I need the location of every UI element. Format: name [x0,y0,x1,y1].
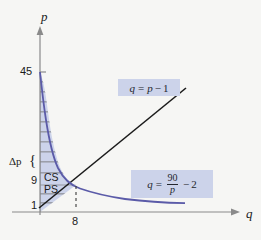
supply-demand-surplus-figure: p q 45 9 1 8 Δp { CS PS q = p − 1 q = 90… [0,0,261,240]
plot-canvas [0,0,261,240]
demand-equation-box: q = 90 p − 2 [131,170,213,198]
supply-equation-box: q = p − 1 [118,79,180,96]
p-axis-arrowhead [37,26,44,35]
demand-eq-fraction: 90 p [167,173,178,195]
supply-eq-rhs-const: 1 [163,82,169,94]
supply-eq-lhs: q [130,82,136,94]
consumer-surplus-steps [40,72,80,185]
q-axis-arrowhead [231,209,240,216]
delta-p-brace: { [29,152,36,169]
p-axis-label: p [41,10,48,23]
q-axis-label: q [246,207,253,220]
demand-eq-denominator: p [167,184,178,196]
demand-eq-equals: = [156,178,162,190]
demand-eq-lhs: q [147,178,153,190]
y-tick-label-9: 9 [31,175,37,186]
demand-eq-const: 2 [191,178,197,190]
producer-surplus-label: PS [44,184,58,195]
x-tick-label-8: 8 [72,216,78,227]
y-tick-label-1: 1 [31,200,37,211]
delta-p-label: Δp [9,156,22,167]
supply-eq-minus: − [155,82,161,94]
y-tick-label-45: 45 [20,66,32,77]
supply-eq-rhs-var: p [147,82,153,94]
supply-eq-equals: = [138,82,144,94]
demand-eq-minus: − [183,178,189,190]
demand-eq-numerator: 90 [168,173,178,184]
consumer-surplus-label: CS [44,172,59,183]
